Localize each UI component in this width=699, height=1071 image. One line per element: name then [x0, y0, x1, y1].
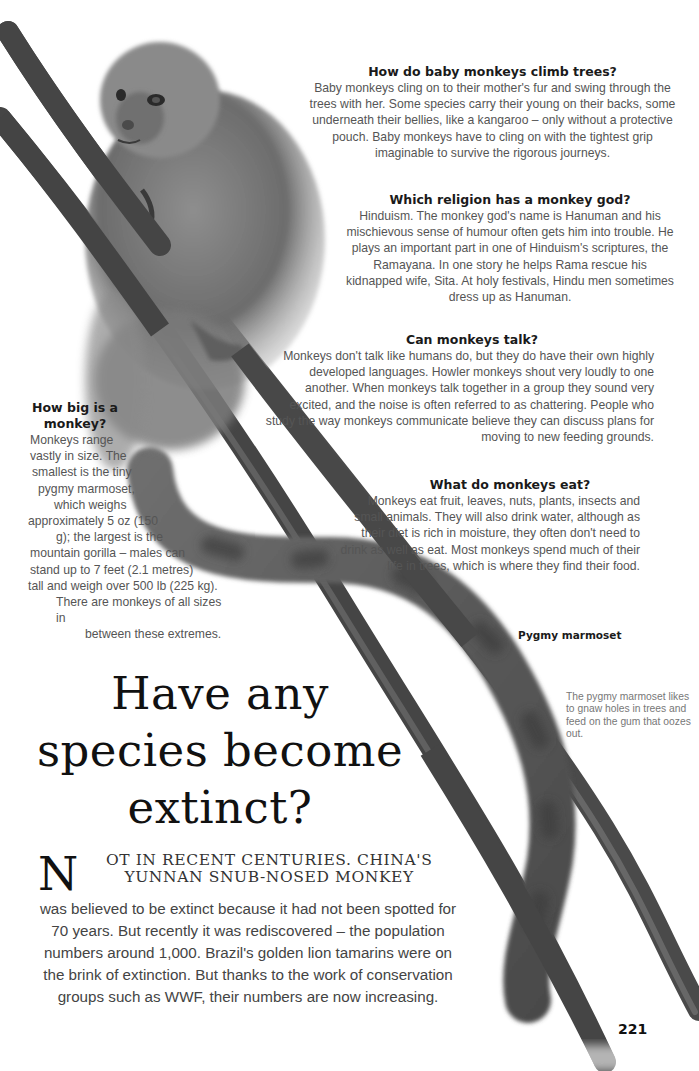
answer-text: Monkeys eat fruit, leaves, nuts, plants,…	[340, 493, 680, 574]
answer-line: pygmy marmoset,	[30, 481, 230, 497]
feature-body-text: was believed to be extinct because it ha…	[38, 894, 458, 1008]
qa-how-big: How big is a monkey? Monkeys range vastl…	[30, 400, 230, 643]
qa-monkey-god: Which religion has a monkey god? Hinduis…	[345, 192, 675, 305]
answer-line: between these extremes.	[30, 626, 230, 642]
headline-line: Have any	[20, 665, 420, 722]
feature-headline: Have any species become extinct?	[20, 665, 420, 836]
answer-line: tall and weigh over 500 lb (225 kg).	[28, 578, 230, 594]
feature-intro: N OT IN RECENT CENTURIES. CHINA'S YUNNAN…	[38, 852, 458, 1008]
answer-line: There are monkeys of all sizes in	[30, 594, 230, 626]
answer-line: mountain gorilla – males can	[30, 545, 230, 561]
question-heading: How big is a monkey?	[30, 400, 120, 432]
answer-line: which weighs	[30, 497, 230, 513]
qa-monkeys-talk: Can monkeys talk? Monkeys don't talk lik…	[262, 332, 682, 445]
question-heading: How do baby monkeys climb trees?	[305, 64, 680, 80]
lead-caps-line: OT IN RECENT CENTURIES. CHINA'S	[38, 852, 458, 869]
answer-text: Monkeys don't talk like humans do, but t…	[262, 348, 682, 445]
image-caption-label: Pygmy marmoset	[518, 629, 621, 641]
answer-line: Monkeys range	[30, 432, 230, 448]
answer-line: smallest is the tiny	[30, 464, 230, 480]
question-heading: What do monkeys eat?	[340, 477, 680, 493]
answer-line: g); the largest is the	[30, 529, 230, 545]
question-heading: Which religion has a monkey god?	[345, 192, 675, 208]
lead-caps-line: YUNNAN SNUB-NOSED MONKEY	[38, 869, 458, 886]
question-heading: Can monkeys talk?	[262, 332, 682, 348]
answer-text: Monkeys range vastly in size. The smalle…	[30, 432, 230, 643]
answer-line: stand up to 7 feet (2.1 metres)	[30, 562, 230, 578]
answer-text: Baby monkeys cling on to their mother's …	[305, 80, 680, 161]
image-caption-text: The pygmy marmoset likes to gnaw holes i…	[566, 691, 696, 741]
qa-monkeys-eat: What do monkeys eat? Monkeys eat fruit, …	[340, 477, 680, 574]
headline-line: extinct?	[20, 779, 420, 836]
answer-text: Hinduism. The monkey god's name is Hanum…	[345, 208, 675, 305]
lead-in-caps: OT IN RECENT CENTURIES. CHINA'S YUNNAN S…	[38, 852, 458, 886]
drop-cap: N	[38, 852, 78, 894]
page-number: 221	[618, 1021, 647, 1037]
headline-line: species become	[20, 722, 420, 779]
answer-line: approximately 5 oz (150	[28, 513, 230, 529]
qa-baby-monkeys-climb: How do baby monkeys climb trees? Baby mo…	[305, 64, 680, 161]
answer-line: vastly in size. The	[30, 448, 230, 464]
